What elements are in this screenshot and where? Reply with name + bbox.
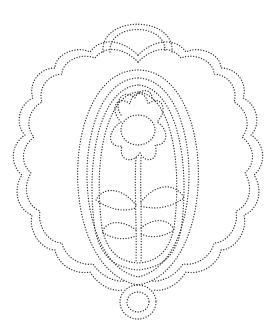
flower	[111, 91, 166, 160]
inner-bands	[78, 70, 199, 285]
scalloped-border	[13, 42, 262, 290]
bottom-ring	[120, 285, 156, 319]
pricking-pattern	[0, 0, 276, 334]
pattern-drawing	[0, 0, 276, 334]
top-loop	[103, 24, 172, 52]
stem-leaves	[96, 158, 184, 262]
